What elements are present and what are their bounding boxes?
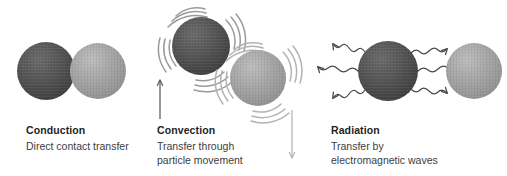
emitting-sphere-texture [358, 41, 418, 101]
radiation-title: Radiation [331, 124, 438, 137]
receiving-sphere-texture [446, 43, 502, 99]
panel-conduction [17, 42, 126, 100]
ray-right-upper [411, 48, 447, 54]
rising-hot-sphere-texture [172, 17, 230, 75]
conduction-title: Conduction [26, 124, 129, 137]
hot-sphere-texture [17, 42, 75, 100]
ray-left-middle [318, 66, 358, 72]
incoming-wavy-rays [318, 44, 365, 98]
panel-radiation [318, 41, 502, 101]
convection-description: Transfer through particle movement [157, 139, 243, 167]
caption-radiation: Radiation Transfer by electromagnetic wa… [331, 124, 438, 167]
two-touching-spheres-icon [17, 42, 126, 100]
radiation-description: Transfer by electromagnetic waves [331, 139, 438, 167]
convection-title: Convection [157, 124, 243, 137]
ray-left-upper [333, 44, 365, 52]
ray-left-lower [333, 90, 365, 98]
caption-convection: Convection Transfer through particle mov… [157, 124, 243, 167]
ray-right-lower [411, 88, 447, 94]
caption-conduction: Conduction Direct contact transfer [26, 124, 129, 153]
sinking-cold-sphere-texture [230, 50, 286, 106]
conduction-description: Direct contact transfer [26, 139, 129, 153]
cold-sphere-texture [70, 43, 126, 99]
